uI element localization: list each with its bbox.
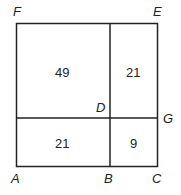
region-bottom-left-area: 21: [55, 137, 69, 150]
point-label-e: E: [153, 5, 162, 18]
point-label-c: C: [152, 172, 161, 185]
point-label-f: F: [13, 5, 21, 18]
region-top-right-area: 21: [126, 66, 140, 79]
region-bottom-right-area: 9: [130, 137, 137, 150]
point-label-d: D: [96, 101, 105, 114]
square-figure: [0, 0, 181, 195]
region-top-left-area: 49: [55, 66, 69, 79]
point-label-a: A: [11, 172, 20, 185]
point-label-b: B: [104, 172, 113, 185]
point-label-g: G: [163, 112, 173, 125]
